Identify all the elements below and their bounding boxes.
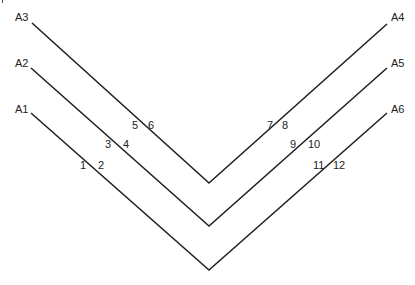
end-label-a1: A1	[15, 104, 28, 115]
point-label-5: 5	[132, 120, 138, 131]
path-a2-a5	[31, 68, 387, 226]
point-label-6: 6	[148, 120, 154, 131]
point-label-1: 1	[80, 160, 86, 171]
end-label-a4: A4	[391, 12, 404, 23]
point-label-9: 9	[290, 139, 296, 150]
v-paths	[0, 0, 415, 285]
point-label-7: 7	[267, 120, 273, 131]
point-label-4: 4	[123, 139, 129, 150]
point-label-8: 8	[282, 120, 288, 131]
end-label-a5: A5	[391, 58, 404, 69]
diagram-canvas: A3 A2 A1 A4 A5 A6 1 2 3 4 5 6 7 8 9 10 1…	[0, 0, 415, 285]
end-label-a2: A2	[15, 58, 28, 69]
point-label-11: 11	[313, 160, 324, 171]
end-label-a6: A6	[391, 104, 404, 115]
point-label-2: 2	[98, 160, 104, 171]
point-label-3: 3	[105, 139, 111, 150]
point-label-10: 10	[308, 139, 320, 150]
point-label-12: 12	[333, 160, 345, 171]
end-label-a3: A3	[15, 12, 28, 23]
path-a1-a6	[31, 113, 387, 270]
